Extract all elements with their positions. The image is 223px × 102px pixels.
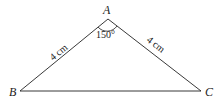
triangle-svg: A B C 150° 4 cm 4 cm bbox=[0, 0, 223, 102]
vertex-label-a: A bbox=[102, 3, 111, 17]
side-ab bbox=[20, 19, 108, 91]
side-ac bbox=[108, 19, 201, 91]
vertex-label-c: C bbox=[205, 85, 214, 99]
side-label-ac: 4 cm bbox=[145, 34, 168, 55]
angle-label-a: 150° bbox=[96, 29, 115, 40]
vertex-label-b: B bbox=[9, 85, 17, 99]
triangle-diagram: A B C 150° 4 cm 4 cm bbox=[0, 0, 223, 102]
